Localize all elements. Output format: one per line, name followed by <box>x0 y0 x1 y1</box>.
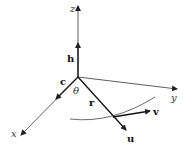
h-label: h <box>67 53 75 64</box>
x-axis-label: x <box>11 128 17 139</box>
y-axis <box>78 77 177 89</box>
vector-diagram: z h c θ r x y v u <box>0 0 194 153</box>
r-label: r <box>89 97 95 108</box>
r-u-vector <box>78 77 126 130</box>
u-label: u <box>127 133 134 144</box>
z-axis-label: z <box>69 3 76 14</box>
v-label: v <box>152 106 160 117</box>
c-label: c <box>60 76 66 87</box>
y-axis-label: y <box>170 92 177 103</box>
trajectory-curve <box>70 97 155 120</box>
theta-label: θ <box>73 85 79 96</box>
